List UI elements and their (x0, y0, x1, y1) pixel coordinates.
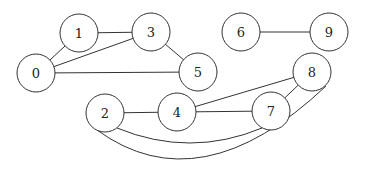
node-label: 9 (325, 25, 333, 40)
node-0: 0 (17, 54, 55, 92)
node-4: 4 (158, 93, 196, 131)
edge-0-5 (36, 72, 198, 73)
edge-2-7 (117, 128, 262, 143)
node-label: 1 (75, 26, 83, 41)
node-9: 9 (310, 13, 348, 51)
node-7: 7 (252, 92, 290, 130)
graph-diagram: 0123456789 (0, 0, 365, 173)
node-5: 5 (179, 53, 217, 91)
node-label: 5 (194, 65, 202, 80)
node-label: 8 (308, 65, 316, 80)
node-label: 6 (237, 25, 245, 40)
node-3: 3 (132, 13, 170, 51)
node-6: 6 (222, 13, 260, 51)
node-2: 2 (86, 94, 124, 132)
node-label: 7 (267, 104, 275, 119)
node-1: 1 (60, 14, 98, 52)
edge-2-8 (97, 86, 326, 159)
node-8: 8 (293, 53, 331, 91)
node-label: 3 (147, 25, 155, 40)
node-label: 0 (32, 66, 40, 81)
node-label: 2 (101, 106, 109, 121)
node-label: 4 (173, 105, 181, 120)
